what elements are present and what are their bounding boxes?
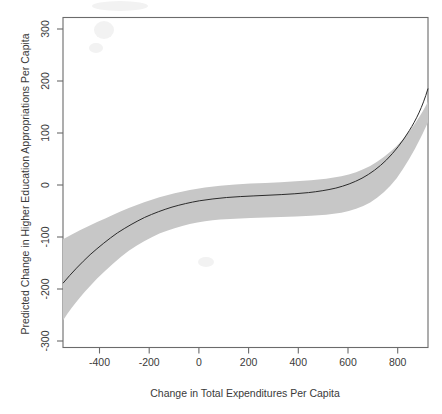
chart-figure: 300 200 100 0 -100 -200 -300 -400 -200 0…: [0, 0, 442, 414]
confidence-band: [63, 101, 428, 320]
partial-effect-plot: 300 200 100 0 -100 -200 -300 -400 -200 0…: [0, 0, 442, 414]
x-axis-title: Change in Total Expenditures Per Capita: [150, 387, 340, 399]
x-tick-label: -200: [139, 356, 160, 368]
y-tick-label: -100: [39, 226, 51, 247]
x-tick-label: 0: [196, 356, 202, 368]
x-axis-tick-labels: -400 -200 0 200 400 600 800: [89, 356, 407, 368]
y-axis-tick-labels: 300 200 100 0 -100 -200 -300: [39, 20, 51, 351]
x-tick-label: -400: [89, 356, 110, 368]
y-tick-label: 100: [39, 124, 51, 142]
y-axis-title: Predicted Change in Higher Education App…: [19, 33, 31, 334]
y-axis-ticks: [57, 29, 63, 341]
y-tick-label: 0: [39, 182, 51, 188]
x-tick-label: 600: [339, 356, 357, 368]
y-tick-label: 300: [39, 20, 51, 38]
y-tick-label: -200: [39, 278, 51, 299]
x-tick-label: 400: [290, 356, 308, 368]
x-tick-label: 200: [240, 356, 258, 368]
y-tick-label: 200: [39, 72, 51, 90]
x-axis-ticks: [100, 348, 398, 354]
y-tick-label: -300: [39, 330, 51, 351]
x-tick-label: 800: [389, 356, 407, 368]
